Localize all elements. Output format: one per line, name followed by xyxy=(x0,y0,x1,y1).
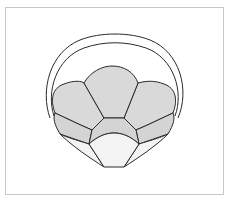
shell-basket-diagram xyxy=(0,0,236,202)
